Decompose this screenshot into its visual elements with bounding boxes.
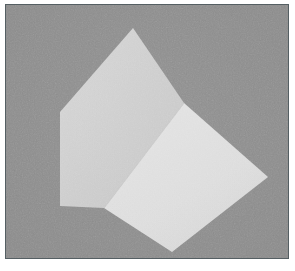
figure-root (0, 0, 295, 271)
cube-shape (6, 5, 289, 259)
image-frame (5, 4, 289, 259)
